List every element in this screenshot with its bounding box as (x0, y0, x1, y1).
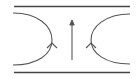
diagram-svg (0, 0, 139, 79)
center-arrowhead-icon (70, 20, 74, 25)
right-curved-flow-line (91, 14, 130, 64)
left-arc-arrowhead-icon (47, 43, 57, 48)
flow-diagram (0, 0, 139, 79)
right-arc-arrowhead-icon (86, 43, 96, 48)
left-curved-flow-line (13, 13, 52, 65)
